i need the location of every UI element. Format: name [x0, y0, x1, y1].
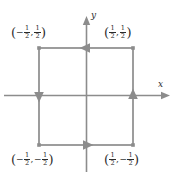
open-paren: ( [104, 152, 109, 167]
direction-arrow-right-up-pointing [128, 89, 138, 100]
corner-marker-bottom-left [37, 143, 41, 147]
denominator: 2 [127, 160, 133, 167]
y-fraction-bottom-left: 12 [42, 152, 48, 167]
comma: , [31, 27, 34, 37]
direction-arrow-left-down-pointing [34, 92, 44, 103]
x-axis-arrowhead [161, 92, 170, 99]
close-paren: ) [134, 152, 139, 167]
corner-label-top-right: (12,12) [104, 25, 132, 40]
close-paren: ) [41, 25, 46, 40]
direction-arrow-bottom-right-pointing [83, 140, 94, 150]
x-sign-bottom-left: − [16, 154, 24, 164]
corner-marker-bottom-right [131, 143, 135, 147]
denominator: 2 [24, 160, 30, 167]
denominator: 2 [34, 33, 40, 40]
x-sign-top-left: − [16, 27, 24, 37]
x-fraction-top-right: 12 [109, 25, 115, 40]
corner-label-bottom-left: (−12,−12) [11, 152, 54, 167]
x-fraction-bottom-right: 12 [109, 152, 115, 167]
close-paren: ) [126, 25, 131, 40]
corner-label-top-left: (−12,12) [11, 25, 46, 40]
denominator: 2 [42, 160, 48, 167]
open-paren: ( [104, 25, 109, 40]
y-axis-arrowhead [83, 16, 90, 25]
x-axis-label: x [158, 80, 163, 89]
y-axis-label: y [91, 11, 96, 20]
x-fraction-bottom-left: 12 [24, 152, 30, 167]
corner-marker-top-right [131, 46, 135, 50]
comma: , [116, 27, 119, 37]
y-fraction-top-left: 12 [34, 25, 40, 40]
x-fraction-top-left: 12 [24, 25, 30, 40]
direction-arrow-top-left-pointing [80, 43, 91, 53]
coordinate-square-diagram: (−12,12) (12,12) (−12,−12) (12,−12) x y [0, 0, 174, 177]
y-sign-bottom-left: − [34, 154, 42, 164]
y-fraction-bottom-right: 12 [127, 152, 133, 167]
corner-marker-top-left [37, 46, 41, 50]
corner-label-bottom-right: (12,−12) [104, 152, 139, 167]
denominator: 2 [109, 160, 115, 167]
close-paren: ) [49, 152, 54, 167]
y-sign-bottom-right: − [119, 154, 127, 164]
denominator: 2 [24, 33, 30, 40]
denominator: 2 [109, 33, 115, 40]
